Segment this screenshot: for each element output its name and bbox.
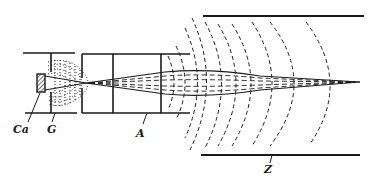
electron-gun-diagram — [0, 0, 377, 186]
label-anode: A — [136, 127, 145, 140]
cathode — [37, 74, 45, 92]
equipotential-lines — [168, 18, 330, 150]
label-screen-plate: Z — [264, 163, 272, 176]
label-grid: G — [47, 123, 56, 136]
label-cathode: Ca — [13, 123, 29, 136]
